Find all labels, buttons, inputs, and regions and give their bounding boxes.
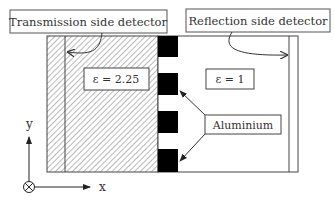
epsilon-left-label: ε = 2.25	[84, 68, 149, 90]
diagram: ε = 2.25 ε = 1 Transmission side detecto…	[0, 0, 334, 204]
aluminium-block	[158, 73, 178, 95]
transmission-label-text: Transmission side detector	[9, 15, 167, 29]
y-axis-label: y	[25, 117, 33, 131]
epsilon-right-label: ε = 1	[206, 69, 254, 89]
dielectric-region	[47, 36, 158, 172]
aluminium-label-text: Aluminium	[212, 119, 274, 132]
aluminium-block	[158, 111, 178, 133]
epsilon-right-text: ε = 1	[216, 73, 245, 86]
epsilon-left-text: ε = 2.25	[93, 73, 139, 86]
aluminium-block	[158, 149, 178, 172]
z-into-page-icon	[24, 182, 35, 193]
x-axis-label: x	[99, 180, 106, 194]
aluminium-block	[158, 36, 178, 57]
reflection-label-text: Reflection side detector	[188, 14, 328, 28]
air-region	[158, 36, 298, 172]
